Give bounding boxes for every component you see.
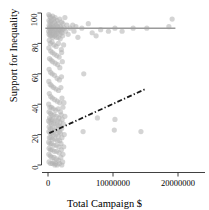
x-tick-label-1: 10000000 xyxy=(96,179,130,188)
y-tick-label-4: 80 xyxy=(31,43,40,52)
y-tick-label-2: 40 xyxy=(31,104,40,113)
x-tick-label-2: 20000000 xyxy=(161,179,195,188)
y-tick-label-5: 100 xyxy=(31,13,40,26)
x-tick-label-0: 0 xyxy=(46,179,50,188)
y-axis-title: Support for Inequality xyxy=(8,0,19,116)
x-axis-title: Total Campaign $ xyxy=(0,198,209,209)
scatter-plot-figure: 01000000020000000 020406080100 Total Cam… xyxy=(0,0,209,210)
y-tick-label-0: 0 xyxy=(31,165,40,169)
y-tick-label-3: 60 xyxy=(31,74,40,83)
y-tick-label-1: 20 xyxy=(31,135,40,144)
